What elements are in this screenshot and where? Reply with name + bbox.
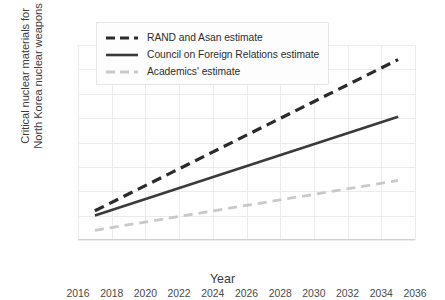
gridline-vertical: [415, 45, 416, 240]
chart-legend: RAND and Asan estimateCouncil on Foreign…: [96, 22, 329, 85]
legend-swatch-icon: [105, 32, 139, 44]
legend-swatch-icon: [105, 49, 139, 61]
legend-swatch-icon: [105, 66, 139, 78]
legend-label: Academics' estimate: [147, 66, 240, 77]
legend-label: RAND and Asan estimate: [147, 32, 263, 43]
legend-label: Council on Foreign Relations estimate: [147, 49, 319, 60]
gridline-horizontal: [78, 240, 415, 241]
legend-item: Academics' estimate: [105, 63, 320, 80]
x-tick-label: 2036: [395, 288, 435, 299]
y-axis-title: Critical nuclear materials for North Kor…: [14, 0, 50, 176]
legend-item: RAND and Asan estimate: [105, 29, 320, 46]
x-axis-title: Year: [0, 272, 445, 286]
chart-figure: Critical nuclear materials for North Kor…: [0, 0, 445, 300]
legend-item: Council on Foreign Relations estimate: [105, 46, 320, 63]
series-line: [95, 117, 398, 216]
